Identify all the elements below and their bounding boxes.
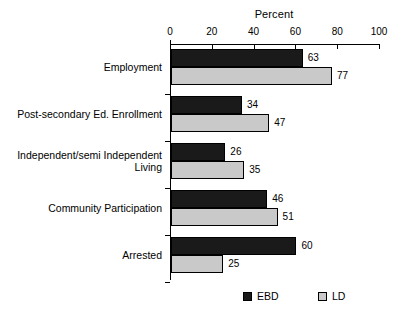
x-axis-tick-labels: 020406080100 [0, 26, 405, 40]
bar-ebd [171, 190, 267, 208]
bar-value-label: 25 [228, 258, 239, 270]
x-tick-label: 40 [248, 26, 259, 38]
legend-swatch-icon [243, 292, 252, 301]
category-label: Post-secondary Ed. Enrollment [17, 108, 162, 121]
x-tick-mark [379, 44, 380, 49]
bar-ebd [171, 237, 296, 255]
bar-value-label: 77 [337, 70, 348, 82]
x-axis-line [170, 44, 379, 45]
bar-ld [171, 67, 332, 85]
y-tick-mark [165, 94, 170, 95]
bar-ebd [171, 143, 225, 161]
legend-item-ld[interactable]: LD [318, 290, 345, 302]
bar-value-label: 46 [272, 193, 283, 205]
bar-value-label: 34 [247, 99, 258, 111]
bar-ld [171, 161, 244, 179]
x-tick-label: 100 [371, 26, 388, 38]
bar-value-label: 35 [249, 164, 260, 176]
legend-swatch-icon [318, 292, 327, 301]
chart-title: Percent [0, 8, 405, 21]
bar-ld [171, 114, 269, 132]
x-tick-label: 80 [332, 26, 343, 38]
bar-value-label: 63 [308, 52, 319, 64]
legend-label: EBD [257, 290, 279, 302]
bar-value-label: 51 [283, 211, 294, 223]
bar-value-label: 26 [230, 146, 241, 158]
category-label: Employment [104, 61, 162, 74]
bar-ld [171, 208, 278, 226]
x-tick-mark [337, 44, 338, 49]
bar-value-label: 60 [301, 240, 312, 252]
category-label: Independent/semi Independent Living [17, 149, 162, 174]
y-tick-mark [165, 282, 170, 283]
y-tick-mark [165, 188, 170, 189]
bar-ebd [171, 49, 303, 67]
category-label: Arrested [122, 249, 162, 262]
x-tick-label: 60 [290, 26, 301, 38]
category-label: Community Participation [48, 202, 162, 215]
legend-label: LD [332, 290, 345, 302]
y-tick-mark [165, 235, 170, 236]
x-tick-label: 20 [206, 26, 217, 38]
x-tick-label: 0 [167, 26, 173, 38]
y-tick-mark [165, 141, 170, 142]
bar-value-label: 47 [274, 117, 285, 129]
legend-item-ebd[interactable]: EBD [243, 290, 279, 302]
bar-ld [171, 255, 223, 273]
chart-legend: EBDLD [0, 290, 405, 306]
bar-ebd [171, 96, 242, 114]
bar-chart: Percent 020406080100 EmploymentPost-seco… [0, 0, 405, 315]
